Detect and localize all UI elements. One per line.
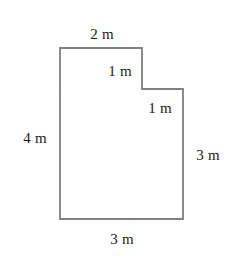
dimension-label-bottom: 3 m (110, 232, 134, 247)
geometry-figure-canvas: 2 m 1 m 1 m 4 m 3 m 3 m (0, 0, 245, 258)
dimension-label-step-horizontal: 1 m (148, 101, 172, 116)
dimension-label-left: 4 m (23, 131, 47, 146)
dimension-label-upper-step-vertical: 1 m (108, 64, 132, 79)
dimension-label-top: 2 m (90, 27, 114, 42)
dimension-label-right: 3 m (196, 148, 220, 163)
